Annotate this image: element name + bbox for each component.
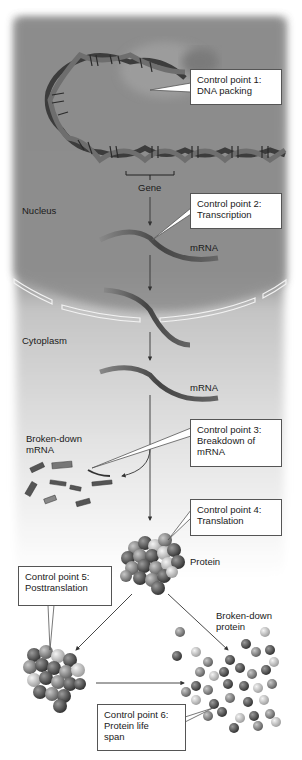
callout-2-title: Control point 2:	[197, 198, 275, 209]
callout-control-point-5: Control point 5: Posttranslation	[18, 566, 112, 606]
protein-label: Protein	[190, 556, 220, 567]
callout-control-point-1: Control point 1: DNA packing	[190, 69, 282, 105]
mrna-nucleus-label: mRNA	[190, 242, 218, 253]
cytoplasm-label: Cytoplasm	[22, 335, 67, 346]
callout-1-text: DNA packing	[197, 85, 275, 96]
callout-3-text: Breakdown of	[197, 435, 275, 446]
callout-4-title: Control point 4:	[197, 504, 275, 515]
modified-protein	[23, 645, 86, 713]
callout-6-title: Control point 6:	[104, 709, 179, 720]
callout-5-title: Control point 5:	[25, 571, 105, 582]
callout-control-point-2: Control point 2: Transcription	[190, 193, 282, 229]
callout-control-point-3: Control point 3: Breakdown of mRNA	[190, 419, 282, 467]
broken-mrna-label-line1: Broken-down	[26, 433, 82, 444]
gene-expression-diagram: Nucleus Cytoplasm Gene mRNA mRNA Broken-…	[0, 0, 302, 760]
callout-2-text: Transcription	[197, 209, 275, 220]
callout-6-text-2: span	[104, 731, 179, 742]
gene-label: Gene	[138, 182, 161, 193]
protein-arrows	[76, 594, 228, 683]
diagram-artwork	[0, 0, 302, 760]
callout-3-title: Control point 3:	[197, 424, 275, 435]
callout-5-text: Posttranslation	[25, 582, 105, 593]
nucleus-label: Nucleus	[22, 205, 56, 216]
broken-protein-label-line2: protein	[216, 621, 272, 632]
callout-1-title: Control point 1:	[197, 74, 275, 85]
broken-mrna-label: Broken-down mRNA	[26, 433, 82, 455]
callout-control-point-4: Control point 4: Translation	[190, 499, 282, 536]
mrna-cytoplasm-label: mRNA	[190, 382, 218, 393]
callout-6-text: Protein life	[104, 720, 179, 731]
broken-protein-label-line1: Broken-down	[216, 610, 272, 621]
callout-3-text-2: mRNA	[197, 446, 275, 457]
callout-control-point-6: Control point 6: Protein life span	[97, 704, 186, 751]
broken-mrna-label-line2: mRNA	[26, 444, 82, 455]
callout-4-text: Translation	[197, 515, 275, 526]
broken-protein-label: Broken-down protein	[216, 610, 272, 632]
